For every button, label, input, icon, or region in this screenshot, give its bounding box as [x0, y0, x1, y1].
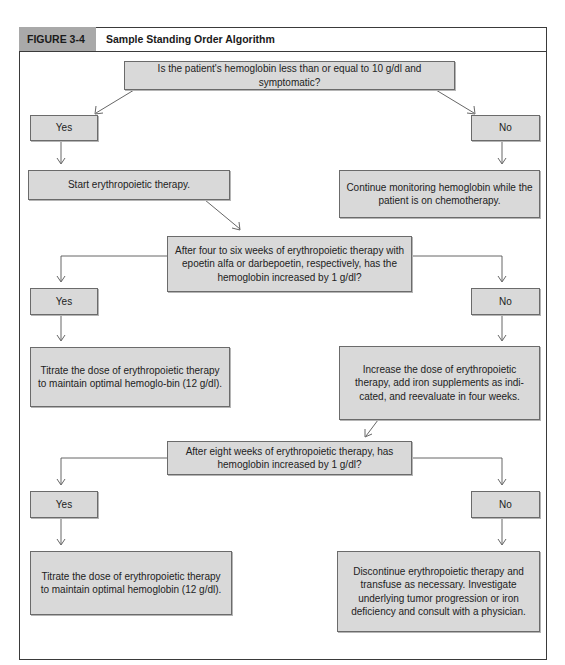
decision-q1-hemoglobin-symptomatic: Is the patient's hemoglobin less than or… — [124, 61, 455, 90]
discontinue-therapy-node: Discontinue erythropoietic therapy and t… — [337, 551, 540, 632]
node-text: No — [493, 295, 518, 309]
continue-monitoring-node: Continue monitoring hemoglobin while the… — [339, 170, 540, 218]
node-text: Yes — [50, 498, 78, 512]
node-text: After eight weeks of erythropoietic ther… — [168, 445, 411, 472]
node-text: After four to six weeks of erythropoieti… — [168, 244, 411, 285]
arrow-q2-to-yes — [61, 256, 167, 281]
titrate-dose-node-2: Titrate the dose of erythropoietic thera… — [30, 551, 232, 615]
q1-yes-node: Yes — [30, 115, 98, 141]
arrow-q3-to-yes — [61, 458, 167, 484]
arrow-q1-to-no — [436, 90, 474, 113]
titrate-dose-node-1: Titrate the dose of erythropoietic thera… — [30, 347, 230, 407]
node-text: Start erythropoietic therapy. — [62, 178, 196, 192]
increase-dose-node: Increase the dose of erythropoietic ther… — [339, 346, 540, 420]
arrow-q1-to-yes — [96, 90, 134, 113]
arrow-start-to-q2 — [205, 200, 240, 229]
start-therapy-node: Start erythropoietic therapy. — [28, 170, 230, 200]
node-text: Yes — [50, 121, 78, 135]
node-text: Discontinue erythropoietic therapy and t… — [338, 565, 539, 619]
node-text: Is the patient's hemoglobin less than or… — [125, 62, 454, 89]
decision-q3-eight-weeks: After eight weeks of erythropoietic ther… — [167, 441, 412, 475]
q3-yes-node: Yes — [30, 491, 98, 518]
node-text: Yes — [50, 295, 78, 309]
node-text: Titrate the dose of erythropoietic thera… — [31, 364, 229, 391]
q3-no-node: No — [471, 491, 540, 518]
node-text: No — [493, 498, 518, 512]
arrow-q2-to-no — [412, 256, 502, 281]
node-text: Titrate the dose of erythropoietic thera… — [31, 570, 231, 597]
q2-yes-node: Yes — [30, 288, 98, 315]
node-text: No — [493, 121, 518, 135]
q1-no-node: No — [471, 115, 540, 141]
node-text: Continue monitoring hemoglobin while the… — [340, 181, 539, 208]
decision-q2-four-to-six-weeks: After four to six weeks of erythropoieti… — [167, 236, 412, 292]
node-text: Increase the dose of erythropoietic ther… — [340, 363, 539, 404]
q2-no-node: No — [471, 288, 540, 315]
arrow-increase-to-q3 — [366, 420, 378, 436]
arrow-q3-to-no — [412, 458, 502, 484]
